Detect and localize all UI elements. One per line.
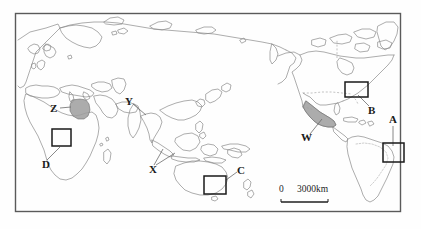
map-label-x: X (149, 164, 157, 175)
leader-line-y (133, 104, 146, 115)
shaded-regions-layer (70, 99, 336, 127)
political-borders-layer (303, 40, 358, 110)
scale-bar-line (281, 199, 328, 202)
world-map-graphic (0, 0, 421, 229)
leader-lines-layer (47, 95, 393, 180)
map-label-y: Y (125, 96, 133, 107)
map-label-w: W (301, 132, 312, 143)
scale-bar-distance-label: 3000km (297, 185, 328, 195)
leader-line-z (60, 107, 71, 108)
map-label-c: C (237, 165, 245, 176)
map-label-b: B (368, 105, 375, 116)
map-label-a: A (389, 114, 397, 125)
shaded-region-z (70, 99, 90, 119)
box-marker-c[interactable] (204, 176, 226, 194)
box-marker-d[interactable] (52, 129, 71, 146)
box-marker-b[interactable] (345, 82, 368, 97)
map-label-z: Z (50, 103, 57, 114)
map-label-d: D (42, 159, 50, 170)
map-figure: A B C D W X Y Z 0 3000km (0, 0, 421, 229)
scale-bar-zero-label: 0 (279, 185, 284, 195)
